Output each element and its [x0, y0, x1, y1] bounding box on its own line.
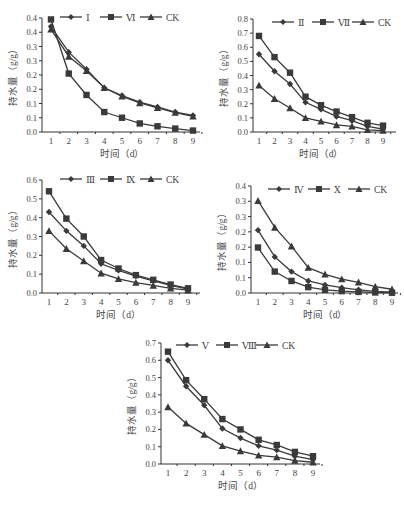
square-marker: [320, 19, 326, 25]
y-tick-label: 0.3: [235, 212, 246, 222]
square-marker: [190, 127, 196, 133]
triangle-marker: [97, 270, 104, 277]
square-marker: [292, 449, 298, 455]
x-tick-label: 9: [186, 297, 191, 307]
square-marker: [272, 268, 278, 274]
square-marker: [274, 442, 280, 448]
y-tick-label: 0.3: [235, 196, 246, 206]
y-axis-label: 持水量（g/g）: [7, 44, 18, 106]
chart-5: 0.00.10.20.30.40.50.60.7123456789时间（d）持水…: [126, 338, 322, 491]
legend-label: CK: [378, 18, 391, 28]
square-marker: [224, 342, 230, 348]
legend-label: Ⅶ: [337, 18, 350, 28]
square-marker: [287, 69, 293, 75]
y-tick-label: 0.1: [26, 113, 37, 123]
x-tick-label: 6: [256, 468, 261, 478]
y-axis-label: 持水量（g/g）: [216, 208, 227, 270]
y-tick-label: 0.3: [145, 407, 156, 417]
x-axis-label: 时间（d）: [218, 480, 263, 491]
x-axis-label: 时间（d）: [303, 309, 348, 320]
y-tick-label: 0.3: [26, 232, 37, 242]
legend-label: Ⅴ: [201, 341, 209, 351]
x-tick-label: 5: [319, 136, 324, 146]
square-marker: [46, 188, 52, 194]
square-marker: [172, 125, 178, 131]
square-marker: [66, 70, 72, 76]
y-tick-label: 0.5: [26, 194, 37, 204]
x-tick-label: 2: [64, 297, 69, 307]
square-marker: [83, 92, 89, 98]
x-tick-label: 8: [168, 297, 173, 307]
square-marker: [48, 16, 54, 22]
y-tick-label: 0.5: [237, 56, 248, 66]
y-tick-label: 0.8: [237, 14, 248, 24]
square-marker: [349, 114, 355, 120]
legend: ⅡⅦCK: [272, 18, 391, 28]
x-tick-label: 3: [82, 297, 87, 307]
x-tick-label: 4: [99, 297, 104, 307]
diamond-marker: [305, 278, 311, 284]
triangle-marker: [164, 403, 171, 410]
series-Ⅷ: [165, 348, 316, 459]
square-marker: [119, 115, 125, 121]
square-marker: [316, 186, 322, 192]
x-tick-label: 4: [306, 297, 311, 307]
x-tick-label: 4: [303, 136, 308, 146]
x-tick-label: 4: [220, 468, 225, 478]
triangle-marker: [271, 224, 278, 231]
x-tick-label: 1: [257, 136, 262, 146]
x-tick-label: 7: [356, 297, 361, 307]
diamond-marker: [255, 227, 261, 233]
x-tick-label: 7: [275, 468, 280, 478]
legend-label: Ⅰ: [86, 13, 90, 23]
y-tick-label: 0.0: [145, 459, 156, 469]
triangle-marker: [302, 114, 309, 121]
legend: ⅢⅨCK: [60, 175, 179, 185]
square-marker: [154, 123, 160, 129]
y-tick-label: 0.0: [237, 127, 248, 137]
square-marker: [137, 120, 143, 126]
square-marker: [108, 14, 114, 20]
diamond-marker: [184, 342, 190, 348]
y-tick-label: 0.1: [235, 257, 246, 267]
square-marker: [302, 93, 308, 99]
square-marker: [255, 244, 261, 250]
legend-label: Ⅳ: [294, 185, 304, 195]
chart-2: 0.00.10.20.30.40.50.60.70.8123456789时间（d…: [218, 14, 396, 159]
triangle-marker: [286, 104, 293, 111]
x-tick-label: 8: [173, 136, 178, 146]
x-tick-label: 5: [323, 297, 328, 307]
x-tick-label: 9: [191, 136, 196, 146]
square-marker: [63, 215, 69, 221]
y-tick-label: 0.5: [145, 373, 156, 383]
x-tick-label: 5: [116, 297, 121, 307]
x-tick-label: 2: [273, 297, 278, 307]
diamond-marker: [280, 19, 286, 25]
y-tick-label: 0.2: [26, 70, 37, 80]
square-marker: [165, 348, 171, 354]
triangle-marker: [321, 271, 328, 278]
y-tick-label: 0.2: [145, 424, 156, 434]
x-tick-label: 7: [151, 297, 156, 307]
y-tick-label: 0.4: [26, 213, 37, 223]
chart-1: 0.00.10.10.20.20.30.30.40.4123456789时间（d…: [7, 13, 202, 160]
y-axis-label: 持水量（g/g）: [126, 372, 137, 434]
y-tick-label: 0.0: [235, 288, 246, 298]
square-marker: [101, 109, 107, 115]
y-tick-label: 0.6: [26, 175, 37, 185]
series-Ⅶ: [256, 33, 386, 129]
y-axis-label: 持水量（g/g）: [7, 205, 18, 267]
x-tick-label: 9: [381, 136, 386, 146]
triangle-marker: [201, 431, 208, 438]
x-axis-label: 时间（d）: [96, 309, 141, 320]
diamond-marker: [237, 435, 243, 441]
x-tick-label: 7: [155, 136, 160, 146]
square-marker: [318, 102, 324, 108]
triangle-marker: [80, 257, 87, 264]
x-axis-label: 时间（d）: [299, 148, 344, 159]
x-tick-label: 8: [365, 136, 370, 146]
y-tick-label: 0.1: [26, 269, 37, 279]
legend-label: CK: [282, 341, 295, 351]
square-marker: [288, 278, 294, 284]
square-marker: [81, 233, 87, 239]
